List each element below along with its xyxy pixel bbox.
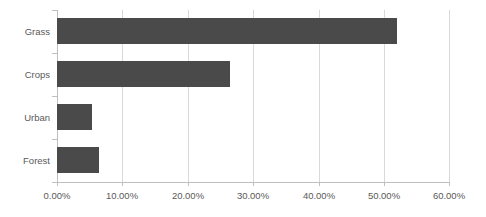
- y-axis-tick: [52, 53, 57, 54]
- bar-forest[interactable]: [57, 147, 99, 173]
- bar-row: [57, 10, 450, 53]
- x-axis-tick-label-10: 10.00%: [92, 190, 152, 201]
- y-axis-label-crops: Crops: [4, 69, 50, 80]
- bar-row: [57, 53, 450, 96]
- y-axis-label-forest: Forest: [4, 155, 50, 166]
- bar-crops[interactable]: [57, 61, 230, 87]
- x-axis-tick-label-40: 40.00%: [289, 190, 349, 201]
- x-axis-tick: [188, 182, 189, 186]
- x-axis-tick: [384, 182, 385, 186]
- plot-area: [57, 10, 450, 182]
- y-axis-tick: [52, 10, 57, 11]
- x-axis-tick-label-0: 0.00%: [27, 190, 87, 201]
- y-axis-tick: [52, 139, 57, 140]
- bar-chart: Grass Crops Urban Forest 0.00% 10.00% 20…: [0, 0, 486, 217]
- bar-grass[interactable]: [57, 18, 397, 44]
- x-axis-tick: [57, 182, 58, 186]
- x-axis-tick-label-60: 60.00%: [419, 190, 479, 201]
- x-axis-tick: [449, 182, 450, 186]
- y-axis-label-grass: Grass: [4, 26, 50, 37]
- y-axis-label-urban: Urban: [4, 112, 50, 123]
- x-axis-tick: [319, 182, 320, 186]
- bar-row: [57, 139, 450, 182]
- bar-row: [57, 96, 450, 139]
- x-axis-tick-label-20: 20.00%: [158, 190, 218, 201]
- bar-urban[interactable]: [57, 104, 92, 130]
- x-axis-tick-label-30: 30.00%: [223, 190, 283, 201]
- y-axis-tick: [52, 96, 57, 97]
- x-axis-tick: [122, 182, 123, 186]
- x-axis-tick: [253, 182, 254, 186]
- x-axis-tick-label-50: 50.00%: [354, 190, 414, 201]
